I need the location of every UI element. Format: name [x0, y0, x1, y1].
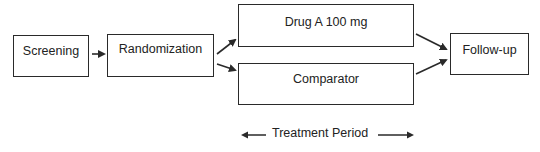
node-randomization: Randomization: [107, 34, 214, 77]
node-label: Comparator: [239, 72, 413, 86]
treatment-period-span: Treatment Period: [240, 124, 420, 144]
node-drug-a: Drug A 100 mg: [238, 4, 414, 47]
arrow-randomization-to-comparator: [217, 64, 235, 70]
arrow-randomization-to-druga: [217, 40, 235, 54]
node-comparator: Comparator: [238, 63, 414, 105]
arrow-comparator-to-followup: [416, 60, 446, 74]
arrow-druga-to-followup: [416, 34, 446, 49]
treatment-period-label: Treatment Period: [272, 126, 368, 140]
node-label: Screening: [14, 44, 88, 58]
node-label: Randomization: [108, 42, 213, 56]
node-screening: Screening: [13, 35, 89, 77]
node-follow-up: Follow-up: [450, 33, 529, 75]
node-label: Follow-up: [451, 43, 528, 57]
node-label: Drug A 100 mg: [239, 15, 413, 29]
